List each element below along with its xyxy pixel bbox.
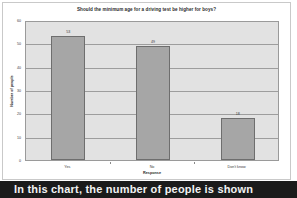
- caption-text: In this chart, the number of people is s…: [14, 182, 253, 197]
- x-axis-tick-label: Don't know: [228, 165, 246, 170]
- slide-canvas: Should the minimum age for a driving tes…: [0, 0, 297, 198]
- y-axis-tick-label: 0: [19, 159, 21, 163]
- bar-no[interactable]: [136, 46, 170, 160]
- bar-don-t-know[interactable]: [221, 118, 255, 160]
- bar-value-label: 49: [151, 40, 155, 45]
- plot-wrapper: 534918: [25, 21, 279, 161]
- y-axis-title: Number of people: [10, 75, 15, 106]
- x-axis-tick-label: Yes: [64, 165, 70, 170]
- bar-value-label: 18: [236, 112, 240, 117]
- bar-slot: 49: [111, 22, 196, 160]
- bar-slot: 53: [26, 22, 111, 160]
- chart-container: Should the minimum age for a driving tes…: [2, 2, 291, 180]
- x-axis-tick-mark: [110, 162, 111, 164]
- y-axis-title-container: Number of people: [10, 21, 18, 161]
- x-axis-tick-mark: [194, 162, 195, 164]
- caption-banner: In this chart, the number of people is s…: [0, 181, 297, 198]
- chart-title: Should the minimum age for a driving tes…: [3, 6, 290, 13]
- bar-slot: 18: [195, 22, 279, 160]
- x-axis-title: Response: [25, 171, 279, 176]
- bar-value-label: 53: [66, 30, 70, 35]
- x-axis-tick-label: No: [150, 165, 155, 170]
- bar-yes[interactable]: [51, 36, 85, 160]
- plot-area: 534918: [25, 21, 279, 161]
- bars-layer: 534918: [26, 22, 278, 160]
